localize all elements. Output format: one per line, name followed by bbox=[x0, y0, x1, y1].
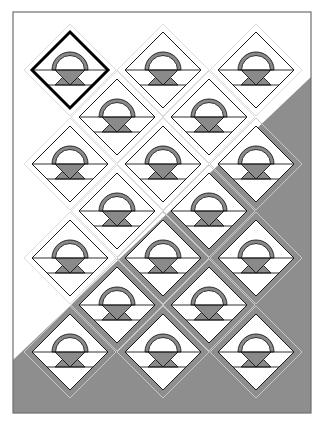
quilt-diagram bbox=[0, 0, 323, 423]
